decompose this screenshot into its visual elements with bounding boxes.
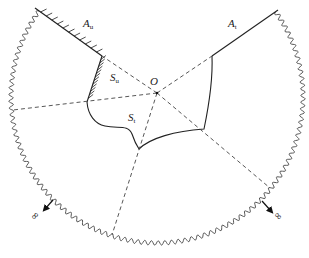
arrow-left-icon	[45, 200, 53, 209]
surface-su-line	[87, 56, 106, 102]
boundary-at-line	[212, 10, 278, 56]
origin-point	[156, 92, 159, 95]
surface-st-curve	[87, 56, 212, 149]
diagram-canvas: O Au At Su St ∞ ∞	[0, 0, 309, 258]
diagram-graphic	[0, 0, 309, 258]
label-origin: O	[150, 76, 158, 87]
label-surface-st: St	[128, 112, 135, 125]
arrow-right-icon	[262, 201, 271, 211]
label-boundary-at: At	[228, 18, 237, 31]
label-surface-su: Su	[110, 72, 119, 85]
boundary-au-line	[35, 8, 102, 56]
radial-dashed-lines	[13, 56, 270, 235]
label-boundary-au: Au	[83, 18, 93, 31]
outer-wavy-boundary	[9, 11, 305, 245]
